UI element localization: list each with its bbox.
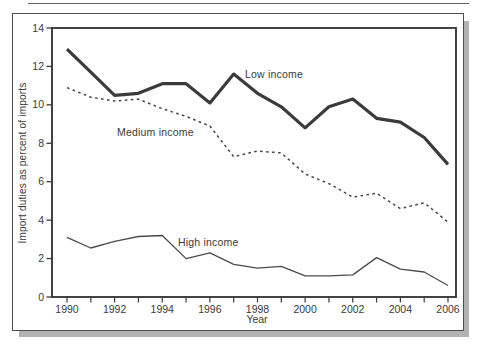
x-tick-label: 2000 (293, 303, 317, 315)
y-tick-label: 2 (38, 252, 44, 264)
series-line-high-income (67, 236, 448, 286)
figure-page: 0246810121419901992199419961998200020022… (0, 0, 482, 347)
x-tick-label: 1996 (198, 303, 222, 315)
y-tick-label: 8 (38, 137, 44, 149)
x-tick-label: 2004 (389, 303, 413, 315)
y-tick-label: 12 (32, 60, 44, 72)
y-tick-label: 14 (32, 22, 44, 34)
chart-canvas: 0246810121419901992199419961998200020022… (0, 0, 482, 347)
series-line-medium-income (67, 88, 448, 223)
y-tick-label: 4 (38, 214, 44, 226)
y-tick-label: 0 (38, 291, 44, 303)
plot-border (52, 28, 456, 297)
x-tick-label: 1998 (246, 303, 270, 315)
x-tick-label: 1994 (151, 303, 175, 315)
x-tick-label: 2006 (436, 303, 460, 315)
y-tick-label: 6 (38, 175, 44, 187)
x-tick-label: 1990 (55, 303, 79, 315)
x-tick-label: 2002 (341, 303, 365, 315)
x-tick-label: 1992 (103, 303, 127, 315)
y-tick-label: 10 (32, 98, 44, 110)
series-line-low-income (67, 49, 448, 164)
